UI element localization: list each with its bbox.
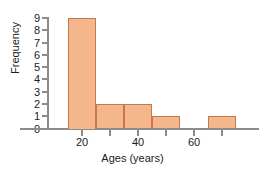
- y-tick-mark: [42, 78, 48, 80]
- x-tick-label: 40: [123, 136, 153, 148]
- x-tick-label: 20: [67, 136, 97, 148]
- y-tick-mark: [42, 91, 48, 93]
- histogram-bar: [124, 104, 152, 129]
- x-tick-mark: [109, 130, 111, 136]
- histogram-bar: [152, 116, 180, 128]
- histogram-bar: [68, 18, 96, 129]
- histogram-bar: [96, 104, 124, 129]
- y-tick-mark: [42, 54, 48, 56]
- y-tick-mark: [42, 103, 48, 105]
- histogram-chart: Frequency 0123456789 Ages (years) 204060: [0, 0, 265, 174]
- x-tick-mark: [165, 130, 167, 136]
- y-tick-mark: [42, 17, 48, 19]
- y-tick-mark: [42, 115, 48, 117]
- y-tick-mark: [42, 29, 48, 31]
- y-tick-mark: [42, 42, 48, 44]
- y-tick-mark: [42, 66, 48, 68]
- histogram-bar: [208, 116, 236, 128]
- x-tick-mark: [221, 130, 223, 136]
- x-axis-title: Ages (years): [0, 152, 265, 164]
- x-tick-label: 60: [179, 136, 209, 148]
